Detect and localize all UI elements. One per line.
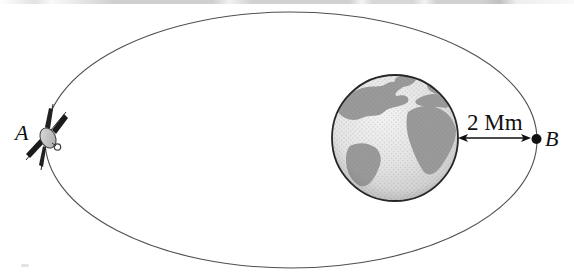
double-headed-arrow-icon [458, 134, 531, 142]
point-b-dot [532, 134, 542, 144]
scan-artifact-speck [21, 264, 29, 267]
label-point-a: A [15, 122, 28, 144]
scan-artifact-top-band [0, 0, 574, 4]
orbit-diagram-canvas [0, 0, 574, 275]
orbit-diagram: A B 2 Mm [0, 0, 574, 275]
earth-globe-icon [332, 75, 458, 201]
satellite-icon [26, 104, 68, 170]
label-point-b: B [545, 128, 558, 150]
distance-label: 2 Mm [467, 111, 523, 134]
